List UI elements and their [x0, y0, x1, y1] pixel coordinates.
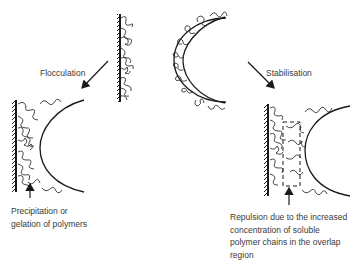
- repulsion-caption-line-1: Repulsion due to the increased: [230, 211, 347, 224]
- precipitation-caption-line-2: gelation of polymers: [11, 218, 87, 231]
- flocculation-label: Flocculation: [40, 67, 85, 80]
- precipitation-caption: Precipitation or gelation of polymers: [11, 205, 87, 230]
- repulsion-caption-line-2: concentration of soluble: [230, 224, 347, 237]
- precipitation-caption-line-1: Precipitation or: [11, 205, 87, 218]
- stabilisation-label: Stabilisation: [266, 67, 312, 80]
- flocculation-arrow: [82, 61, 108, 88]
- top-flat-surface: [117, 14, 133, 102]
- repulsion-caption-line-4: region: [230, 249, 347, 262]
- overlap-region: [283, 122, 300, 186]
- stabilised-state: [264, 104, 350, 196]
- flocculated-state: [12, 99, 84, 193]
- repulsion-caption-line-3: polymer chains in the overlap: [230, 236, 347, 249]
- repulsion-caption: Repulsion due to the increased concentra…: [230, 211, 347, 261]
- top-sphere: [173, 12, 227, 109]
